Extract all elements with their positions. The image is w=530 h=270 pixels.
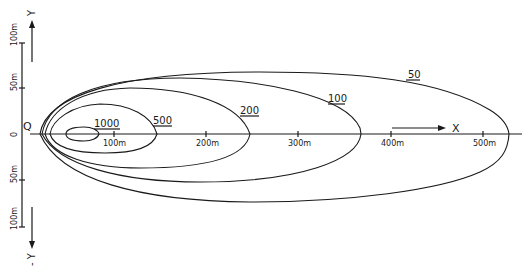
y-tick-label: 100m [10,23,19,46]
x-direction-arrow-icon [392,125,446,131]
neg-y-axis-label: - Y [26,252,37,266]
y-tick-label: 100m [10,207,19,230]
x-tick-label: 500m [473,139,496,148]
svg-text:200: 200 [240,105,259,116]
y-axis-label: Y [26,9,37,17]
x-tick-label: 400m [381,139,404,148]
y-positive-arrow-icon [29,20,35,62]
y-origin-label: 0 [10,132,19,137]
contour-label-1000: 1000 [94,118,120,129]
y-tick-label: 50m [10,165,19,183]
x-tick-label: 300m [288,139,311,148]
origin-label: Q [23,120,32,133]
x-tick-label: 200m [196,139,219,148]
svg-text:100: 100 [328,93,347,104]
svg-text:1000: 1000 [94,118,119,129]
svg-text:50: 50 [408,69,421,80]
contour-label-50: 50 [406,69,421,80]
svg-text:500: 500 [153,115,172,126]
x-axis-label: X [452,122,460,135]
contour-50 [40,72,509,202]
y-negative-arrow-icon [29,207,35,249]
x-tick-label: 100m [103,139,126,148]
contour-label-200: 200 [240,105,259,116]
isopleth-diagram: 100m 200m 300m 400m 500m 100m 50m 0 50m … [0,0,530,270]
y-tick-label: 50m [10,73,19,91]
contour-label-100: 100 [328,93,347,104]
contour-label-500: 500 [153,115,172,126]
